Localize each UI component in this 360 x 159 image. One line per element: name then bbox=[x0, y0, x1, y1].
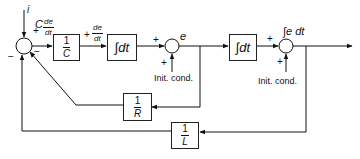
main-sum-minus-sign-l: − bbox=[8, 52, 14, 62]
sum-e-init-cond-label: Init. cond. bbox=[154, 74, 193, 83]
input-i-label: i bbox=[27, 5, 29, 15]
block-integrator-2: ∫dt bbox=[229, 34, 257, 61]
block-inverse-r: 1 R bbox=[123, 93, 152, 121]
de-dt-plus-sign: + bbox=[84, 30, 90, 40]
block-integrator-1: ∫dt bbox=[107, 34, 137, 61]
sum-e-plus-sign-left: + bbox=[153, 35, 159, 45]
sum-int-plus-sign-left: + bbox=[267, 34, 273, 44]
sum-int-plus-sign-bottom: + bbox=[277, 57, 283, 67]
c-coefficient-label: C bbox=[35, 19, 43, 30]
block-inverse-c: 1 C bbox=[53, 34, 80, 61]
signal-e-label: e bbox=[180, 31, 186, 42]
sum-int-init-cond-label: Init. cond. bbox=[258, 77, 297, 86]
block-inverse-l: 1 L bbox=[171, 122, 199, 149]
signal-int-e-dt-label: ∫e dt bbox=[283, 26, 304, 37]
main-sum-minus-sign-r: − bbox=[34, 47, 40, 57]
de-dt-fraction: de dt bbox=[92, 24, 103, 43]
sum-e-plus-sign-bottom: + bbox=[161, 58, 167, 68]
